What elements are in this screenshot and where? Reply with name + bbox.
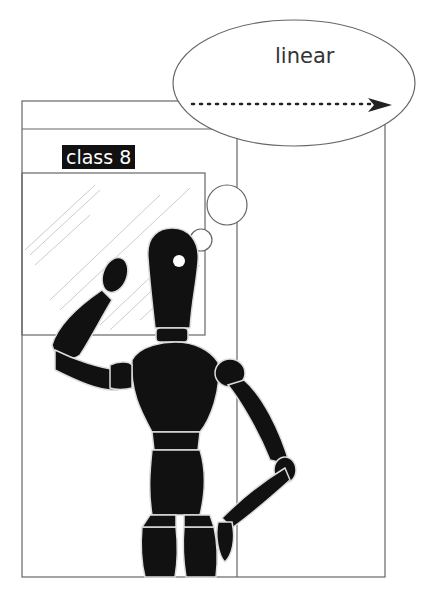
illustration: [0, 0, 436, 613]
class-sign: class 8: [62, 145, 135, 169]
head-highlight: [173, 255, 185, 267]
thought-text: linear: [275, 44, 334, 68]
mannequin-figure: [52, 228, 296, 577]
